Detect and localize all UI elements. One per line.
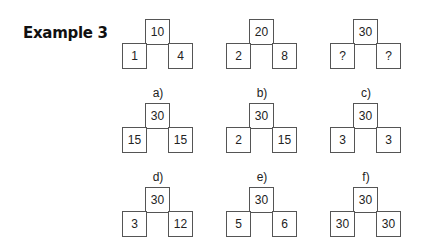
top-box: 30 [249, 103, 274, 129]
right-box: 6 [272, 211, 297, 237]
top-box: 30 [249, 187, 274, 213]
right-box: 30 [376, 211, 401, 237]
left-box: 1 [122, 43, 147, 69]
top-box: 10 [145, 19, 170, 45]
top-box: 30 [353, 187, 378, 213]
option-puzzle-c[interactable]: 30 3 3 [330, 103, 402, 153]
example-puzzle-1: 10 1 4 [122, 19, 194, 69]
left-box: 5 [226, 211, 251, 237]
left-box: 3 [330, 127, 355, 153]
top-box: 30 [145, 187, 170, 213]
left-box: ? [330, 43, 355, 69]
top-box: 30 [353, 19, 378, 45]
option-label-b: b) [242, 86, 282, 100]
example-puzzle-3: 30 ? ? [330, 19, 402, 69]
left-box: 15 [122, 127, 147, 153]
option-label-f: f) [346, 170, 386, 184]
example-title: Example 3 [23, 24, 108, 42]
right-box: 15 [272, 127, 297, 153]
option-puzzle-b[interactable]: 30 2 15 [226, 103, 298, 153]
right-box: 12 [168, 211, 193, 237]
option-label-e: e) [242, 170, 282, 184]
option-label-a: a) [138, 86, 178, 100]
left-box: 2 [226, 127, 251, 153]
option-puzzle-f[interactable]: 30 30 30 [330, 187, 402, 237]
top-box: 20 [249, 19, 274, 45]
option-puzzle-e[interactable]: 30 5 6 [226, 187, 298, 237]
example-puzzle-2: 20 2 8 [226, 19, 298, 69]
top-box: 30 [353, 103, 378, 129]
left-box: 2 [226, 43, 251, 69]
right-box: 8 [272, 43, 297, 69]
left-box: 3 [122, 211, 147, 237]
right-box: ? [376, 43, 401, 69]
option-puzzle-d[interactable]: 30 3 12 [122, 187, 194, 237]
option-label-d: d) [138, 170, 178, 184]
option-puzzle-a[interactable]: 30 15 15 [122, 103, 194, 153]
left-box: 30 [330, 211, 355, 237]
option-label-c: c) [346, 86, 386, 100]
right-box: 4 [168, 43, 193, 69]
right-box: 15 [168, 127, 193, 153]
top-box: 30 [145, 103, 170, 129]
right-box: 3 [376, 127, 401, 153]
